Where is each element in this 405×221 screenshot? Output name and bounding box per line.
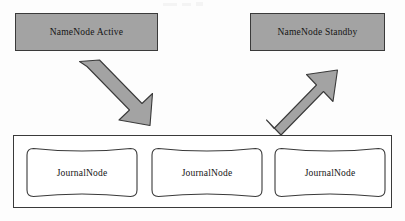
namenode-active-box[interactable]: NameNode Active — [15, 13, 158, 51]
namenode-active-label: NameNode Active — [50, 27, 123, 37]
scan-artifact — [196, 2, 203, 6]
journalnode-3-label: JournalNode — [274, 147, 386, 198]
namenode-standby-box[interactable]: NameNode Standby — [250, 13, 385, 51]
journalnode-cluster: JournalNode JournalNode JournalNode — [13, 135, 392, 208]
scan-artifact — [182, 3, 191, 6]
journalnode-1-shape[interactable]: JournalNode — [26, 147, 138, 198]
journalnode-1-label: JournalNode — [26, 147, 138, 198]
scan-artifact — [163, 3, 177, 6]
arrow-journal-to-standby-icon — [267, 70, 338, 135]
arrow-active-to-journal-icon — [80, 60, 153, 126]
journalnode-2-shape[interactable]: JournalNode — [151, 147, 263, 198]
journalnode-2-label: JournalNode — [151, 147, 263, 198]
namenode-standby-label: NameNode Standby — [278, 27, 358, 37]
journalnode-3-shape[interactable]: JournalNode — [274, 147, 386, 198]
diagram-canvas: NameNode Active NameNode Standby Journal… — [0, 0, 405, 221]
